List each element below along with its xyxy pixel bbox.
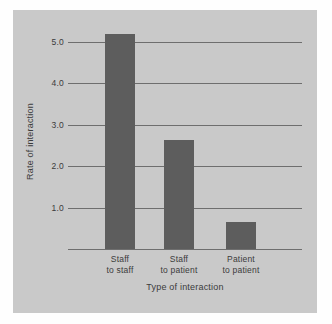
y-axis-title: Rate of interaction: [25, 33, 39, 250]
ytick-label-3: 3.0: [52, 120, 64, 130]
gridline-4: 4.0: [68, 83, 302, 84]
xtick-line-1: Staff: [161, 254, 198, 265]
xtick-staff-to-staff: Staff to staff: [107, 254, 134, 275]
bar-patient-to-patient: [226, 222, 256, 250]
bar-staff-to-staff: [105, 34, 135, 250]
bar-staff-to-patient: [164, 140, 194, 250]
xtick-line-2: to patient: [161, 265, 198, 276]
xtick-staff-to-patient: Staff to patient: [161, 254, 198, 275]
ytick-label-4: 4.0: [52, 78, 64, 88]
figure: 1.0 2.0 3.0 4.0 5.0 Staff to s: [0, 0, 332, 324]
x-axis-line: [68, 249, 302, 250]
xtick-line-1: Staff: [107, 254, 134, 265]
x-axis-title: Type of interaction: [68, 282, 302, 292]
gridline-3: 3.0: [68, 125, 302, 126]
xtick-line-1: Patient: [223, 254, 260, 265]
ytick-label-1: 1.0: [52, 203, 64, 213]
chart-panel: 1.0 2.0 3.0 4.0 5.0 Staff to s: [13, 10, 317, 313]
xtick-line-2: to staff: [107, 265, 134, 276]
plot-area: 1.0 2.0 3.0 4.0 5.0 Staff to s: [68, 33, 302, 250]
ytick-label-5: 5.0: [52, 37, 64, 47]
gridline-5: 5.0: [68, 42, 302, 43]
xtick-patient-to-patient: Patient to patient: [223, 254, 260, 275]
xtick-line-2: to patient: [223, 265, 260, 276]
ytick-label-2: 2.0: [52, 161, 64, 171]
